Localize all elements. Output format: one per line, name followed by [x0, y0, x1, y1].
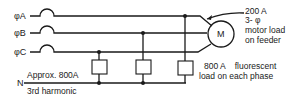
fluorescent-load-phase-c	[92, 50, 107, 85]
annotation-leader	[207, 13, 244, 19]
neutral-current-label: Approx. 800A	[27, 70, 79, 80]
fluorescent-load-phase-a	[178, 14, 193, 83]
fluorescent-annotation-line-1: 800 A fluorescent	[204, 61, 276, 71]
neutral-harmonic-label: 3rd harmonic	[27, 86, 77, 96]
motor-symbol: M	[217, 29, 225, 39]
phase-b-label: φB	[14, 28, 26, 38]
phase-b-wire	[30, 26, 207, 33]
fluorescent-load-phase-b	[136, 31, 151, 85]
motor-annotation-line-4: on feeder	[245, 35, 281, 45]
phase-c-label: φC	[14, 47, 26, 57]
motor-annotation-line-3: motor load	[245, 25, 285, 35]
phase-c-wire	[30, 44, 211, 52]
phase-a-label: φA	[14, 11, 26, 21]
neutral-label: N	[17, 78, 24, 88]
motor-annotation-line-2: 3- φ	[245, 15, 260, 25]
fluorescent-annotation-line-2: load on each phase	[199, 71, 273, 81]
